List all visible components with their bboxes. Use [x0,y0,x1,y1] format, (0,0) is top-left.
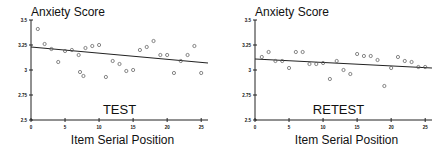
x-tick-label: 15 [355,125,361,130]
data-point [403,59,406,62]
data-point [104,75,107,78]
data-point [166,53,169,56]
data-point [260,55,263,58]
data-point [78,70,81,73]
y-tick-label: 3.5 [21,18,28,23]
data-point [362,54,365,57]
y-tick-label: 2.75 [242,93,251,98]
data-point [91,44,94,47]
data-point [172,71,175,74]
x-tick-label: 0 [30,125,33,130]
data-point [410,60,413,63]
panel-test: Anxiety Score2.52.7533.253.50510152025TE… [18,5,208,147]
x-tick-label: 5 [64,125,67,130]
x-axis-label: Item Serial Position [71,133,174,147]
data-point [328,77,331,80]
data-point [315,62,318,65]
data-point [308,62,311,65]
data-point [301,50,304,53]
data-point [125,69,128,72]
x-tick-label: 20 [165,125,171,130]
data-point [335,59,338,62]
y-tick-label: 2.75 [18,93,27,98]
trendline [255,59,432,68]
data-point [200,71,203,74]
data-point [383,84,386,87]
data-point [396,55,399,58]
data-point [356,52,359,55]
data-point [97,43,100,46]
data-point [152,39,155,42]
data-point [77,53,80,56]
data-point [349,72,352,75]
x-tick-label: 20 [389,125,395,130]
y-tick-label: 3.5 [245,18,252,23]
x-tick-label: 15 [131,125,137,130]
data-point [193,44,196,47]
figure: Anxiety Score2.52.7533.253.50510152025TE… [0,0,448,156]
y-tick-label: 2.5 [245,118,252,123]
x-axis-label: Item Serial Position [295,133,398,147]
data-point [267,50,270,53]
data-point [132,68,135,71]
chart-title: Anxiety Score [31,5,105,19]
data-point [376,58,379,61]
data-point [111,59,114,62]
data-point [294,50,297,53]
x-tick-label: 5 [288,125,291,130]
data-point [390,66,393,69]
data-point [82,74,85,77]
data-point [145,45,148,48]
panel-retest: Anxiety Score2.52.7533.253.50510152025RE… [242,5,432,147]
x-tick-label: 25 [199,125,205,130]
chart-title: Anxiety Score [255,5,329,19]
panel-label: TEST [103,102,136,117]
x-tick-label: 0 [254,125,257,130]
y-tick-label: 3.25 [242,43,251,48]
data-point [84,46,87,49]
x-tick-label: 25 [423,125,429,130]
y-tick-label: 3 [24,68,27,73]
data-point [186,53,189,56]
x-tick-label: 10 [97,125,103,130]
data-point [43,42,46,45]
chart-svg: Anxiety Score2.52.7533.253.50510152025TE… [0,0,448,156]
data-point [118,62,121,65]
y-tick-label: 3.25 [18,43,27,48]
panel-label: RETEST [313,102,364,117]
y-tick-label: 2.5 [21,118,28,123]
data-point [369,54,372,57]
y-tick-label: 3 [248,68,251,73]
data-point [342,68,345,71]
data-point [57,60,60,63]
data-point [287,66,290,69]
x-tick-label: 10 [321,125,327,130]
data-point [159,53,162,56]
data-point [36,27,39,30]
data-point [138,48,141,51]
